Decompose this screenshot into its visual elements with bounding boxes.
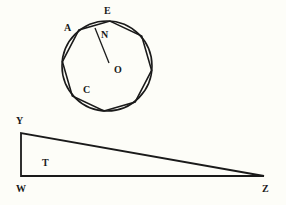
label-O: O — [114, 64, 122, 75]
label-E: E — [104, 5, 111, 16]
label-T: T — [42, 157, 49, 168]
label-Z: Z — [262, 183, 269, 194]
circle-octagon-figure: E A N O C — [62, 5, 152, 111]
label-A: A — [64, 22, 72, 33]
label-C: C — [83, 84, 90, 95]
label-Y: Y — [16, 115, 24, 126]
figure-svg: E A N O C Y T W Z — [0, 0, 286, 205]
right-triangle-figure: Y T W Z — [16, 115, 269, 194]
triangle-WYZ — [21, 133, 264, 176]
geometry-figure: E A N O C Y T W Z — [0, 0, 286, 205]
label-N: N — [101, 29, 109, 40]
label-W: W — [16, 183, 26, 194]
